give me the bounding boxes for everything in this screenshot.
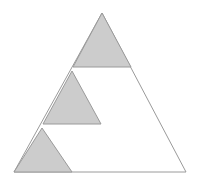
triangle-figure <box>0 0 201 188</box>
figure-container <box>0 0 201 188</box>
